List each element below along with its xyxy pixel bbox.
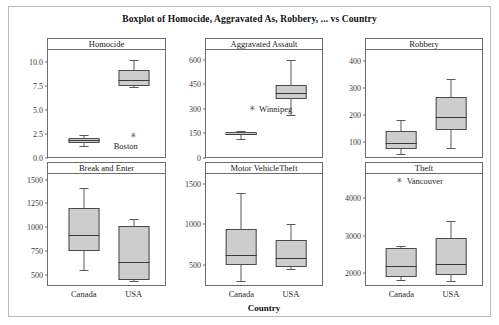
x-axis-title: Country [205, 303, 323, 313]
y-axis-tick-mark [203, 133, 206, 134]
y-axis-tick-mark [363, 60, 366, 61]
panel-theft: Theft200030004000CanadaUSA✳Vancouver [365, 162, 483, 286]
y-axis-tick-mark [45, 62, 48, 63]
boxplot-whisker-cap [397, 154, 406, 155]
boxplot-box [118, 70, 149, 86]
boxplot-whisker-cap [286, 60, 295, 61]
boxplot-median-line [276, 258, 307, 259]
boxplot-median-line [68, 235, 99, 236]
panel-title: Homocide [47, 38, 166, 50]
outlier-label: Vancouver [407, 176, 443, 186]
y-axis-tick-mark [203, 224, 206, 225]
boxplot-whisker-cap [446, 221, 455, 222]
y-axis-tick-mark [363, 141, 366, 142]
y-axis-tick-mark [45, 110, 48, 111]
boxplot-median-line [118, 262, 149, 263]
x-axis-tick-label: Canada [229, 289, 255, 299]
y-axis-tick-mark [45, 250, 48, 251]
boxplot-whisker-cap [286, 269, 295, 270]
panel-aggravated-assault: Aggravated Assault0150300450600✳Winnipeg [205, 38, 323, 158]
y-axis-tick-mark [363, 272, 366, 273]
panel-title: Theft [365, 162, 483, 174]
y-axis-tick-mark [203, 108, 206, 109]
boxplot-median-line [226, 134, 257, 135]
boxplot-whisker-cap [79, 270, 88, 271]
panel-motor-vehicletheft: Motor VehicleTheft50010001500CanadaUSA [205, 162, 323, 286]
y-axis-tick-mark [363, 235, 366, 236]
panel-title: Aggravated Assault [205, 38, 323, 50]
x-axis-tick-label: Canada [71, 289, 97, 299]
boxplot-whisker-cap [79, 135, 88, 136]
panel-title: Break and Enter [47, 162, 166, 174]
boxplot-median-line [386, 266, 417, 267]
boxplot-box [386, 131, 417, 149]
y-axis-tick-mark [45, 86, 48, 87]
boxplot-whisker-cap [237, 193, 246, 194]
y-axis-tick-mark [203, 183, 206, 184]
y-axis-tick-mark [363, 87, 366, 88]
x-axis-tick-label: USA [442, 289, 459, 299]
boxplot-whisker-cap [286, 224, 295, 225]
boxplot-median-line [226, 255, 257, 256]
outlier-label: Winnipeg [259, 104, 292, 114]
boxplot-median-line [386, 143, 417, 144]
figure-title: Boxplot of Homocide, Aggravated As, Robb… [0, 14, 499, 24]
y-axis-tick-mark [203, 59, 206, 60]
plot-area: 0.02.55.07.510.0✳Boston [47, 50, 166, 158]
boxplot-figure: Boxplot of Homocide, Aggravated As, Robb… [0, 0, 499, 325]
outlier-marker: ✳ [396, 177, 403, 185]
y-axis-tick-mark [363, 198, 366, 199]
panel-title: Robbery [365, 38, 483, 50]
boxplot-box [118, 226, 149, 280]
boxplot-whisker-cap [79, 188, 88, 189]
boxplot-whisker-cap [129, 281, 138, 282]
x-axis-tick-label: USA [125, 289, 142, 299]
boxplot-whisker-cap [397, 280, 406, 281]
plot-area: 0150300450600✳Winnipeg [205, 50, 323, 158]
y-axis-tick-mark [203, 158, 206, 159]
y-axis-tick-mark [45, 134, 48, 135]
boxplot-whisker-cap [237, 139, 246, 140]
panel-robbery: Robbery100200300400 [365, 38, 483, 158]
boxplot-box [226, 229, 257, 266]
boxplot-median-line [436, 264, 467, 265]
boxplot-box [68, 208, 99, 251]
plot-area: 200030004000CanadaUSA✳Vancouver [365, 174, 483, 286]
plot-area: 100200300400 [365, 50, 483, 158]
x-axis-tick-label: Canada [389, 289, 415, 299]
y-axis-tick-mark [45, 227, 48, 228]
panel-homocide: Homocide0.02.55.07.510.0✳Boston [47, 38, 166, 158]
boxplot-whisker-cap [397, 120, 406, 121]
y-axis-tick-mark [363, 114, 366, 115]
outlier-marker: ✳ [130, 132, 137, 140]
panel-title: Motor VehicleTheft [205, 162, 323, 174]
boxplot-whisker-cap [79, 146, 88, 147]
boxplot-whisker-cap [129, 60, 138, 61]
boxplot-whisker-cap [446, 148, 455, 149]
boxplot-whisker-cap [446, 79, 455, 80]
plot-area: 50010001500CanadaUSA [205, 174, 323, 286]
boxplot-box [436, 238, 467, 275]
y-axis-tick-mark [45, 158, 48, 159]
boxplot-box [436, 97, 467, 129]
x-axis-tick-label: USA [282, 289, 299, 299]
outlier-label: Boston [114, 141, 138, 151]
y-axis-tick-mark [45, 274, 48, 275]
boxplot-whisker-cap [286, 115, 295, 116]
boxplot-whisker-cap [237, 281, 246, 282]
boxplot-box [276, 240, 307, 267]
y-axis-tick-mark [203, 84, 206, 85]
y-axis-tick-mark [45, 203, 48, 204]
plot-area: 500750100012501500CanadaUSA [47, 174, 166, 286]
boxplot-median-line [436, 117, 467, 118]
y-axis-tick-mark [203, 264, 206, 265]
boxplot-median-line [118, 80, 149, 81]
boxplot-median-line [68, 140, 99, 141]
panel-break-and-enter: Break and Enter500750100012501500CanadaU… [47, 162, 166, 286]
boxplot-whisker-cap [129, 219, 138, 220]
outlier-marker: ✳ [249, 105, 256, 113]
boxplot-whisker-cap [446, 281, 455, 282]
boxplot-whisker-cap [129, 87, 138, 88]
y-axis-tick-mark [45, 179, 48, 180]
boxplot-box [386, 248, 417, 277]
